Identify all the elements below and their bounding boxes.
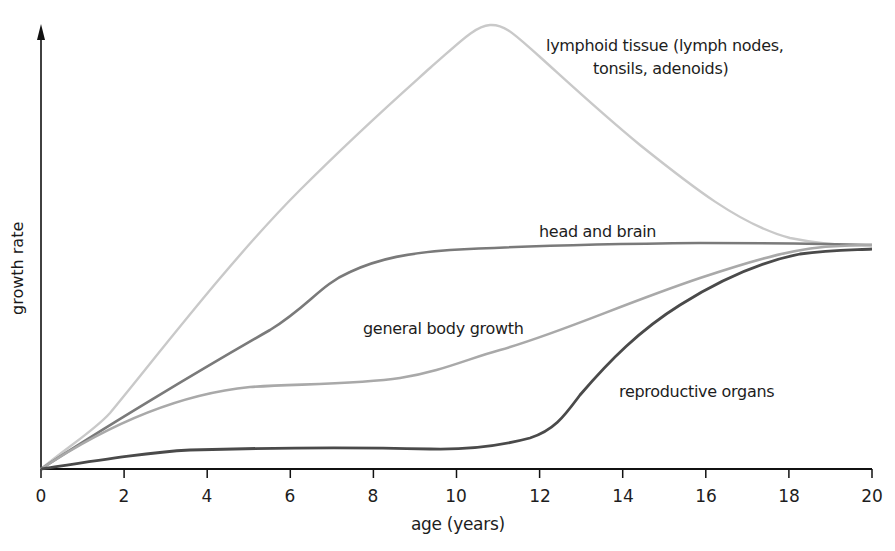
- x-tick-label: 20: [861, 486, 883, 506]
- head-and-brain-label: head and brain: [539, 222, 656, 241]
- reproductive-organs-curve: [41, 249, 872, 469]
- lymphoid-label-line1: lymphoid tissue (lymph nodes,: [546, 36, 784, 55]
- x-tick-label: 12: [529, 486, 551, 506]
- x-tick-label: 8: [368, 486, 379, 506]
- lymphoid-curve: [41, 25, 872, 469]
- head-and-brain-curve: [41, 243, 872, 469]
- reproductive-organs-label: reproductive organs: [619, 382, 774, 401]
- x-tick-label: 2: [119, 486, 130, 506]
- x-tick-label: 10: [445, 486, 467, 506]
- lymphoid-label-line2: tonsils, adenoids): [593, 59, 728, 78]
- general-body-growth-label: general body growth: [363, 319, 524, 338]
- y-axis-title: growth rate: [8, 222, 27, 315]
- y-axis-arrow-icon: [37, 24, 45, 40]
- growth-chart: [0, 0, 895, 551]
- x-axis-ticks: [41, 469, 872, 478]
- x-tick-label: 6: [285, 486, 296, 506]
- x-tick-label: 0: [36, 486, 47, 506]
- x-tick-label: 16: [695, 486, 717, 506]
- x-axis-title: age (years): [411, 514, 505, 534]
- x-tick-label: 4: [202, 486, 213, 506]
- x-tick-label: 14: [612, 486, 634, 506]
- x-tick-label: 18: [778, 486, 800, 506]
- general-body-growth-curve: [41, 245, 872, 469]
